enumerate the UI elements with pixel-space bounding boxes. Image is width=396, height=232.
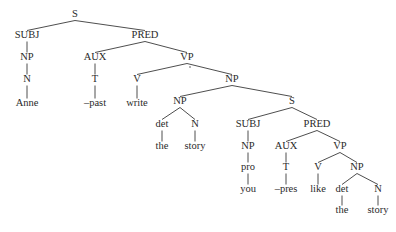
- tree-edge: [232, 86, 292, 97]
- tree-node-label: pro: [241, 161, 255, 172]
- tree-node-label: NP: [20, 51, 34, 62]
- tree-edges: [27, 21, 378, 206]
- tree-leaf-word: like: [310, 183, 326, 194]
- tree-node-label: S: [72, 8, 78, 19]
- tree-node-label: PRED: [132, 29, 159, 40]
- tree-node-label: SUBJ: [236, 118, 261, 129]
- tree-node-label: NP: [173, 95, 187, 106]
- tree-node-label: det: [336, 183, 349, 194]
- tree-marks: [189, 66, 191, 68]
- tree-node-label: T: [283, 161, 290, 172]
- syntax-tree-diagram: SSUBJPREDNPAUXVPNTVNPAnne–pastwriteNPSde…: [0, 0, 396, 232]
- tree-leaf-word: –past: [83, 97, 106, 108]
- tree-node-label: N: [191, 118, 199, 129]
- tree-node-label: PRED: [304, 118, 331, 129]
- tree-leaf-word: –pres: [274, 183, 298, 194]
- tree-node-label: T: [92, 73, 99, 84]
- tree-node-label: NP: [350, 161, 364, 172]
- tree-leaf-word: write: [126, 97, 148, 108]
- tree-node-label: VP: [180, 51, 194, 62]
- tree-leaf-word: the: [336, 204, 349, 215]
- tree-leaf-word: you: [240, 183, 257, 194]
- tree-node-label: NP: [225, 73, 239, 84]
- tree-edge: [137, 64, 187, 75]
- tree-node-label: AUX: [84, 51, 107, 62]
- tree-node-label: S: [289, 95, 295, 106]
- tree-node-label: det: [156, 118, 169, 129]
- tree-node-label: SUBJ: [15, 29, 40, 40]
- tree-leaf-word: Anne: [16, 97, 39, 108]
- tree-nodes: SSUBJPREDNPAUXVPNTVNPAnne–pastwriteNPSde…: [15, 8, 390, 215]
- tree-node-label: AUX: [275, 140, 298, 151]
- tree-node-label: VP: [333, 140, 347, 151]
- tree-node-label: N: [23, 73, 31, 84]
- tree-leaf-word: story: [368, 204, 390, 215]
- tree-leaf-word: the: [156, 140, 169, 151]
- tree-node-label: V: [133, 73, 141, 84]
- tree-leaf-word: story: [185, 140, 207, 151]
- tree-node-label: N: [374, 183, 382, 194]
- tree-node-label: NP: [241, 140, 255, 151]
- tree-node-label: V: [314, 161, 322, 172]
- dot-mark: [189, 66, 191, 68]
- tree-edge: [180, 86, 232, 97]
